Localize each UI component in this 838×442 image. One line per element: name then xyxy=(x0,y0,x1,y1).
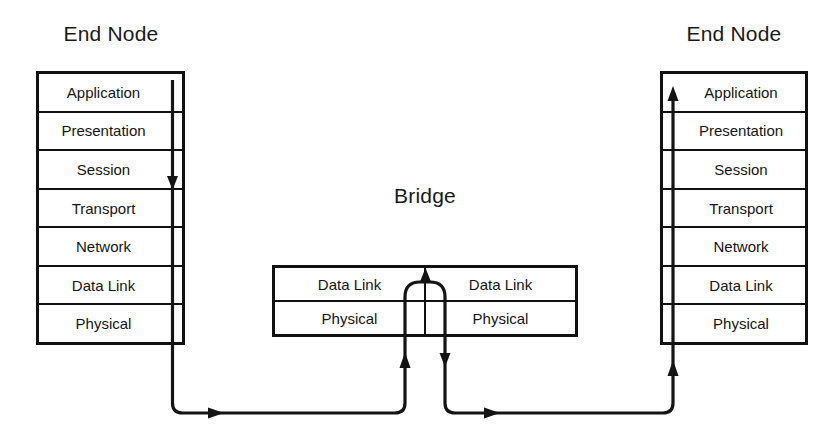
left-node-stack: Application Presentation Session Transpo… xyxy=(36,71,185,345)
left-layer-presentation: Presentation xyxy=(39,113,182,152)
right-layer-session: Session xyxy=(663,151,805,190)
bridge-to-right-node-right-arrowhead xyxy=(484,408,500,419)
left-to-bridge-path xyxy=(173,337,406,413)
right-layer-physical: Physical xyxy=(663,305,805,342)
left-layer-transport: Transport xyxy=(39,190,182,229)
right-layer-transport: Transport xyxy=(663,190,805,229)
right-layer-application: Application xyxy=(663,74,805,113)
bridge-physical-row: Physical Physical xyxy=(275,302,575,334)
right-layer-network: Network xyxy=(663,228,805,267)
diagram-canvas: End Node End Node Bridge Application Pre… xyxy=(0,0,838,442)
right-layer-presentation: Presentation xyxy=(663,113,805,152)
left-layer-application: Application xyxy=(39,74,182,113)
bridge-right-data-link: Data Link xyxy=(426,268,575,300)
bridge-egress-down-arrowhead xyxy=(440,353,451,367)
right-node-stack: Application Presentation Session Transpo… xyxy=(660,71,808,345)
left-layer-physical: Physical xyxy=(39,305,182,342)
bridge-to-right-node-path xyxy=(445,337,673,413)
bridge-title: Bridge xyxy=(350,184,500,208)
left-to-bridge-right-arrowhead xyxy=(208,408,224,419)
bridge-data-link-row: Data Link Data Link xyxy=(275,268,575,302)
left-layer-network: Network xyxy=(39,228,182,267)
bridge-left-data-link: Data Link xyxy=(275,268,426,300)
right-stack-ingress-up-arrowhead xyxy=(668,360,679,376)
bridge-right-physical: Physical xyxy=(426,302,575,334)
bridge-box: Data Link Data Link Physical Physical xyxy=(272,265,578,337)
right-node-title: End Node xyxy=(660,22,808,46)
right-layer-data-link: Data Link xyxy=(663,267,805,306)
left-node-title: End Node xyxy=(36,22,186,46)
left-layer-session: Session xyxy=(39,151,182,190)
bridge-ingress-up-arrowhead xyxy=(400,352,411,368)
left-layer-data-link: Data Link xyxy=(39,267,182,306)
bridge-left-physical: Physical xyxy=(275,302,426,334)
